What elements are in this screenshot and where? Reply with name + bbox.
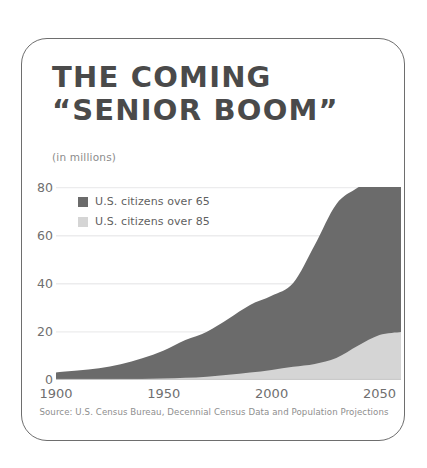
title-line-2: “SENIOR BOOM” bbox=[52, 94, 382, 127]
y-tick-60: 60 bbox=[27, 230, 53, 242]
legend-swatch-over-85 bbox=[78, 217, 88, 227]
page-title: THE COMING “SENIOR BOOM” bbox=[52, 61, 382, 127]
x-tick-1950: 1950 bbox=[147, 386, 180, 401]
y-axis-tick-labels: 020406080 bbox=[22, 187, 53, 380]
chart-legend: U.S. citizens over 65U.S. citizens over … bbox=[78, 193, 210, 233]
x-axis-tick-labels: 1900195020002050 bbox=[56, 386, 401, 404]
x-tick-2000: 2000 bbox=[255, 386, 288, 401]
title-line-1: THE COMING bbox=[52, 61, 382, 94]
x-tick-1900: 1900 bbox=[39, 386, 72, 401]
legend-item-1: U.S. citizens over 65 bbox=[78, 193, 210, 210]
y-tick-80: 80 bbox=[27, 182, 53, 194]
axis-units-note: (in millions) bbox=[52, 151, 116, 163]
legend-label-1: U.S. citizens over 65 bbox=[95, 195, 210, 208]
legend-swatch-over-65 bbox=[78, 197, 88, 207]
source-note: Source: U.S. Census Bureau, Decennial Ce… bbox=[22, 407, 406, 417]
x-tick-2050: 2050 bbox=[363, 386, 396, 401]
legend-label-2: U.S. citizens over 85 bbox=[95, 215, 210, 228]
scan-artifact bbox=[0, 0, 427, 14]
y-tick-0: 0 bbox=[27, 374, 53, 386]
infographic-card: THE COMING “SENIOR BOOM” (in millions) 0… bbox=[21, 38, 405, 441]
legend-item-2: U.S. citizens over 85 bbox=[78, 213, 210, 230]
y-tick-20: 20 bbox=[27, 326, 53, 338]
y-tick-40: 40 bbox=[27, 278, 53, 290]
